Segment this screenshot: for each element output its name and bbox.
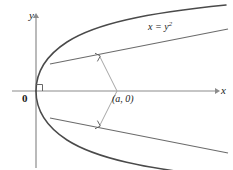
tangent-line-lower: [50, 118, 228, 153]
origin-label: 0: [22, 93, 28, 104]
curve-equation-base: x = y: [148, 21, 169, 32]
normal-line-upper: [100, 57, 117, 91]
tangent-line-upper: [50, 29, 228, 64]
curve-equation-exponent: 2: [169, 20, 172, 27]
point-a-label: (a, 0): [112, 94, 134, 104]
x-axis-label: x: [221, 85, 226, 96]
diagram-canvas: [0, 0, 233, 170]
y-axis-label: y: [29, 10, 34, 21]
curve-equation-label: x = y2: [148, 21, 172, 32]
parabola-diagram: y x 0 x = y2 (a, 0): [0, 0, 233, 170]
